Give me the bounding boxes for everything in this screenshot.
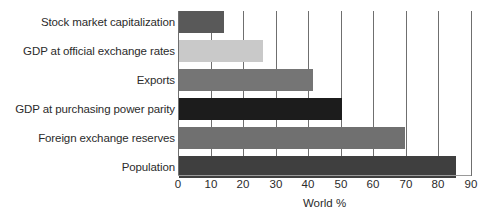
gridline — [308, 11, 309, 176]
gridline — [243, 11, 244, 176]
gridline — [373, 11, 374, 176]
category-axis-labels: Stock market capitalization GDP at offic… — [0, 11, 175, 176]
x-tick-label: 0 — [175, 178, 181, 190]
bar — [179, 127, 405, 149]
gridline — [178, 11, 179, 176]
bar-chart: Stock market capitalization GDP at offic… — [0, 0, 482, 215]
bar — [179, 11, 224, 33]
x-axis-line — [178, 175, 471, 176]
x-axis-title: World % — [178, 197, 471, 209]
x-axis-tick-labels: 0102030405060708090 — [178, 178, 471, 194]
bar — [179, 98, 342, 120]
x-tick-label: 70 — [400, 178, 413, 190]
gridline — [438, 11, 439, 176]
x-tick-label: 80 — [432, 178, 445, 190]
x-tick-label: 40 — [302, 178, 315, 190]
category-label: Stock market capitalization — [0, 11, 175, 33]
gridline — [211, 11, 212, 176]
gridline — [471, 11, 472, 176]
x-tick-label: 60 — [367, 178, 380, 190]
category-label: Exports — [0, 69, 175, 91]
plot-area — [178, 11, 471, 176]
category-label: Foreign exchange reserves — [0, 127, 175, 149]
gridline — [276, 11, 277, 176]
category-label: Population — [0, 156, 175, 178]
gridline — [341, 11, 342, 176]
gridline — [406, 11, 407, 176]
category-label: GDP at purchasing power parity — [0, 98, 175, 120]
x-tick-label: 50 — [335, 178, 348, 190]
x-tick-label: 10 — [205, 178, 218, 190]
bar — [179, 40, 263, 62]
x-tick-label: 90 — [465, 178, 478, 190]
x-tick-label: 30 — [270, 178, 283, 190]
bar — [179, 69, 313, 91]
x-tick-label: 20 — [237, 178, 250, 190]
category-label: GDP at official exchange rates — [0, 40, 175, 62]
